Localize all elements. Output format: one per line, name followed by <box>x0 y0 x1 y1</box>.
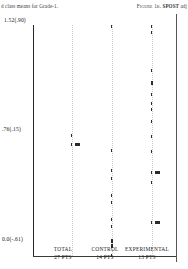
data-point <box>151 102 152 105</box>
group-name: TOTAL <box>40 246 86 254</box>
data-point <box>71 143 72 146</box>
y-axis-line <box>33 25 34 256</box>
data-point <box>151 181 152 184</box>
strip-guide-line <box>112 25 114 256</box>
y-tick-label-middle: .76(.15) <box>2 126 21 132</box>
data-point <box>151 108 152 111</box>
data-point <box>111 194 112 197</box>
running-head-left-text: d class means for Grade-1. <box>1 3 58 9</box>
data-point-block <box>155 171 160 174</box>
group-count: 13 PTS <box>118 254 176 262</box>
data-point <box>111 218 112 221</box>
figure-caption-suffix: adj <box>180 3 187 9</box>
y-tick-label-bottom: 0.0(-.61) <box>2 236 23 242</box>
figure-number-label: Figure 1b. <box>137 3 161 9</box>
data-point <box>151 171 152 174</box>
data-point <box>151 25 152 28</box>
data-point <box>111 201 112 204</box>
data-point <box>151 31 152 34</box>
running-head-right-text: Figure 1b. SPOST adj <box>137 3 187 9</box>
data-point <box>151 221 152 224</box>
data-point <box>111 169 112 172</box>
strip-guide-line <box>72 25 74 256</box>
data-point <box>151 93 152 96</box>
group-label-total: TOTAL 27 PTS <box>40 246 86 261</box>
data-point <box>151 120 152 123</box>
data-strip-experimental <box>138 25 178 256</box>
strip-guide-line <box>152 25 154 256</box>
data-point <box>151 69 152 72</box>
group-count: 27 PTS <box>40 254 86 262</box>
data-point <box>151 135 152 138</box>
data-point <box>111 177 112 180</box>
figure-plot-area: 1.52(.90) .76(.15) 0.0(-.61) <box>0 14 188 269</box>
data-point <box>111 149 112 152</box>
data-point-block <box>155 221 160 224</box>
y-tick-label-top: 1.52(.90) <box>4 17 26 23</box>
data-point-block <box>75 143 80 146</box>
data-strip-control <box>98 25 138 256</box>
data-point <box>111 225 112 228</box>
data-point <box>111 239 113 243</box>
group-name: EXPERIMENTAL <box>118 246 176 254</box>
x-axis-group-labels: TOTAL 27 PTS CONTROL 14 PTS EXPERIMENTAL… <box>0 246 188 269</box>
figure-measure-label: SPOST <box>162 3 179 9</box>
data-point <box>71 134 72 137</box>
group-label-experimental: EXPERIMENTAL 13 PTS <box>118 246 176 261</box>
data-point <box>151 150 152 153</box>
data-point <box>151 81 153 85</box>
data-strip-total <box>58 25 98 256</box>
data-point <box>111 25 112 28</box>
